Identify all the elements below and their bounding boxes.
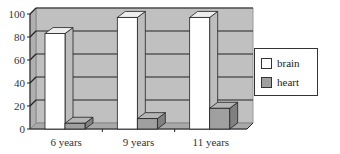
bar-side-brain [65, 28, 73, 129]
bar-side-brain [137, 11, 145, 129]
y-tick-label: 20 [14, 100, 26, 112]
legend: brain heart [254, 48, 318, 96]
x-category-label: 11 years [193, 136, 230, 148]
x-category-label: 9 years [123, 136, 154, 148]
bar-brain [45, 34, 65, 129]
bar-heart [65, 123, 85, 129]
x-category-label: 6 years [50, 136, 81, 148]
bar-heart [137, 119, 157, 129]
bar-brain [190, 17, 210, 129]
legend-swatch-heart [261, 77, 272, 88]
legend-label-heart: heart [277, 76, 299, 88]
bar-brain [117, 17, 137, 129]
y-tick-label: 40 [14, 77, 26, 89]
legend-item-brain: brain [261, 57, 300, 69]
bar-heart [210, 108, 230, 129]
legend-label-brain: brain [277, 57, 300, 69]
legend-item-heart: heart [261, 76, 299, 88]
y-tick-label: 60 [14, 54, 26, 66]
y-tick-label: 100 [9, 8, 26, 20]
plot-side-wall [30, 8, 36, 129]
y-tick-label: 0 [20, 123, 26, 135]
legend-swatch-brain [261, 58, 272, 69]
y-tick-label: 80 [14, 31, 26, 43]
